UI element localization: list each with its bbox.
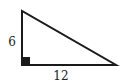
vertical-leg-label: 6 (8, 35, 16, 49)
right-angle-marker (22, 57, 30, 65)
horizontal-leg-label: 12 (53, 69, 68, 82)
right-triangle-diagram: 6 12 (0, 0, 122, 82)
triangle-shape (22, 11, 116, 65)
